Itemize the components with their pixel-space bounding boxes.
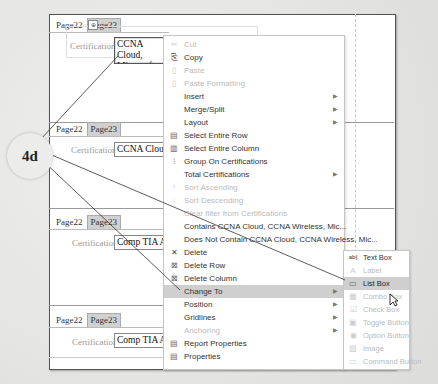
tab-page22[interactable]: Page22 — [52, 122, 87, 137]
properties-icon: ▤ — [168, 350, 180, 363]
certifications-label: Certifications — [71, 145, 120, 155]
sort-ascending-icon: ↑ — [168, 181, 180, 194]
menu-item-select-entire-column[interactable]: ▥Select Entire Column — [164, 142, 344, 155]
toggle-button-icon: ▣ — [347, 316, 359, 329]
tab-page23[interactable]: Page23 — [87, 122, 122, 137]
tab-page23[interactable]: Page23 — [87, 313, 122, 328]
submenu-arrow-icon: ▶ — [333, 285, 338, 298]
menu-item-gridlines[interactable]: Gridlines▶ — [164, 311, 344, 324]
menu-item-cut[interactable]: ✂Cut — [164, 38, 344, 51]
submenu-item-image[interactable]: ▨Image — [344, 342, 409, 355]
submenu-item-check-box[interactable]: ☑Check Box — [344, 303, 409, 316]
combo-box-icon: ▦ — [347, 290, 359, 303]
select-column-icon: ▥ — [168, 142, 180, 155]
delete-icon: ✕ — [168, 246, 180, 259]
menu-item-properties[interactable]: ▤Properties — [164, 350, 344, 363]
menu-item-delete-row[interactable]: ⊠Delete Row — [164, 259, 344, 272]
submenu-arrow-icon: ▶ — [333, 168, 338, 181]
menu-item-sort-descending[interactable]: ↓Sort Descending — [164, 194, 344, 207]
menu-item-delete-column[interactable]: ⊠Delete Column — [164, 272, 344, 285]
delete-row-icon: ⊠ — [168, 259, 180, 272]
menu-item-contains-filter[interactable]: Contains CCNA Cloud, CCNA Wireless, Mic.… — [164, 220, 344, 233]
certifications-field[interactable]: Comp TIA A+ — [114, 333, 170, 348]
scissors-icon: ✂ — [168, 38, 180, 51]
page-tabs-2: Page22 Page23 — [52, 122, 121, 137]
page-tabs-3: Page22 Page23 — [52, 215, 121, 230]
step-callout-badge: 4d — [7, 133, 53, 179]
certifications-label: Certifications — [70, 41, 119, 51]
menu-item-change-to[interactable]: Change To▶ — [164, 285, 344, 298]
text-box-icon: ab| — [347, 251, 359, 264]
menu-item-anchoring[interactable]: Anchoring▶ — [164, 324, 344, 337]
menu-item-group-on-certifications[interactable]: ⁝Group On Certifications — [164, 155, 344, 168]
tab-page22[interactable]: Page22 — [52, 215, 87, 230]
tab-page23[interactable]: Page23 — [87, 215, 122, 230]
mouse-pointer-icon — [389, 293, 399, 310]
certifications-field[interactable]: Comp TIA A+ — [114, 235, 170, 250]
list-box-icon: ▭ — [347, 277, 359, 290]
submenu-item-combo-box[interactable]: ▦Combo Box — [344, 290, 409, 303]
certifications-field-selected[interactable]: CCNA Cloud, Microsoft MC — [114, 37, 170, 64]
tab-underline — [49, 136, 169, 137]
certifications-field[interactable]: CCNA Cloud, — [114, 142, 170, 157]
page-tabs-4: Page22 Page23 — [52, 313, 121, 328]
delete-column-icon: ⊠ — [168, 272, 180, 285]
submenu-item-list-box[interactable]: ▭List Box — [344, 277, 409, 290]
menu-item-merge-split[interactable]: Merge/Split▶ — [164, 103, 344, 116]
check-box-icon: ☑ — [347, 303, 359, 316]
submenu-arrow-icon: ▶ — [333, 298, 338, 311]
menu-item-sort-ascending[interactable]: ↑Sort Ascending — [164, 181, 344, 194]
menu-item-layout[interactable]: Layout▶ — [164, 116, 344, 129]
label-icon: A — [347, 264, 359, 277]
copy-icon: ⎘ — [168, 51, 180, 64]
menu-item-paste[interactable]: ▯Paste — [164, 64, 344, 77]
submenu-item-command-button[interactable]: ▭Command Button — [344, 355, 409, 368]
submenu-arrow-icon: ▶ — [333, 311, 338, 324]
menu-item-paste-formatting[interactable]: ▯Paste Formatting — [164, 77, 344, 90]
move-handle-icon[interactable]: ⊕ — [88, 20, 98, 30]
submenu-arrow-icon: ▶ — [333, 116, 338, 129]
submenu-arrow-icon: ▶ — [333, 324, 338, 337]
submenu-item-label[interactable]: ALabel — [344, 264, 409, 277]
group-icon: ⁝ — [168, 155, 180, 168]
field-value-line2: Microsoft MC — [117, 61, 167, 64]
tab-page22[interactable]: Page22 — [52, 313, 87, 328]
sort-descending-icon: ↓ — [168, 194, 180, 207]
menu-item-clear-filter[interactable]: Clear filter from Certifications — [164, 207, 344, 220]
select-row-icon: ▤ — [168, 129, 180, 142]
submenu-item-toggle-button[interactable]: ▣Toggle Button — [344, 316, 409, 329]
menu-item-report-properties[interactable]: ▤Report Properties — [164, 337, 344, 350]
menu-item-select-entire-row[interactable]: ▤Select Entire Row — [164, 129, 344, 142]
option-button-icon: ◉ — [347, 329, 359, 342]
menu-item-delete[interactable]: ✕Delete — [164, 246, 344, 259]
menu-item-position[interactable]: Position▶ — [164, 298, 344, 311]
report-properties-icon: ▤ — [168, 337, 180, 350]
menu-item-total-certifications[interactable]: Total Certifications▶ — [164, 168, 344, 181]
menu-item-insert[interactable]: Insert▶ — [164, 90, 344, 103]
submenu-item-text-box[interactable]: ab|Text Box — [344, 251, 409, 264]
paste-icon: ▯ — [168, 64, 180, 77]
menu-item-does-not-contain-filter[interactable]: Does Not Contain CCNA Cloud, CCNA Wirele… — [164, 233, 344, 246]
context-menu: ✂Cut ⎘Copy ▯Paste ▯Paste Formatting Inse… — [163, 35, 345, 370]
command-button-icon: ▭ — [347, 355, 359, 368]
submenu-item-option-button[interactable]: ◉Option Button — [344, 329, 409, 342]
tab-underline — [49, 229, 169, 230]
submenu-arrow-icon: ▶ — [333, 90, 338, 103]
tab-underline — [49, 327, 169, 328]
submenu-arrow-icon: ▶ — [333, 103, 338, 116]
menu-item-copy[interactable]: ⎘Copy — [164, 51, 344, 64]
image-icon: ▨ — [347, 342, 359, 355]
field-value-line1: CCNA Cloud, — [117, 39, 167, 61]
change-to-submenu: ab|Text Box ALabel ▭List Box ▦Combo Box … — [343, 250, 410, 370]
paste-formatting-icon: ▯ — [168, 77, 180, 90]
